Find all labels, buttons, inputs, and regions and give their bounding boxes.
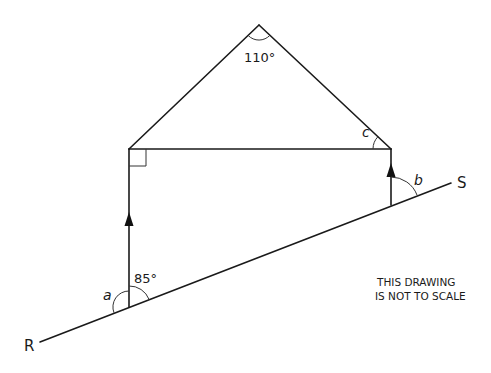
not-to-scale-note-line1: THIS DRAWING xyxy=(376,276,455,288)
angle-arc-a xyxy=(113,291,129,313)
parallel-arrow-right-icon xyxy=(387,163,396,177)
geometry-diagram: 110° c 85° a b R S THIS DRAWING IS NOT T… xyxy=(0,0,491,373)
angle-arc-apex xyxy=(248,35,270,40)
right-angle-marker xyxy=(129,149,146,166)
label-angle-b: b xyxy=(414,172,423,188)
line-rs xyxy=(40,183,451,342)
label-angle-85: 85° xyxy=(134,271,157,286)
angle-arc-c xyxy=(373,137,378,149)
not-to-scale-note-line2: IS NOT TO SCALE xyxy=(375,290,466,302)
label-angle-a: a xyxy=(103,287,112,303)
angle-arc-85 xyxy=(129,286,149,299)
label-point-r: R xyxy=(24,337,34,355)
roof-left-edge xyxy=(129,25,259,149)
parallel-arrow-left-icon xyxy=(125,212,134,226)
label-apex-angle: 110° xyxy=(244,50,275,65)
roof-right-edge xyxy=(259,25,391,149)
label-angle-c: c xyxy=(362,124,370,140)
label-point-s: S xyxy=(457,174,467,192)
